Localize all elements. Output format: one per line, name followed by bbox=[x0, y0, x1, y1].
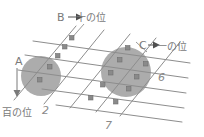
node bbox=[38, 78, 43, 83]
lines-steep bbox=[14, 26, 180, 116]
label-group-c: C bbox=[139, 40, 147, 51]
label-place-tens: 十の位 bbox=[76, 13, 106, 23]
node bbox=[114, 100, 119, 105]
node bbox=[127, 87, 132, 92]
node bbox=[135, 75, 140, 80]
label-group-b: B bbox=[57, 12, 65, 23]
digit-ones: 6 bbox=[158, 72, 165, 83]
node bbox=[118, 58, 123, 63]
node bbox=[126, 46, 131, 51]
node bbox=[56, 54, 61, 59]
node bbox=[101, 83, 106, 88]
label-group-a: A bbox=[15, 56, 23, 67]
arrow-a bbox=[14, 68, 21, 97]
node bbox=[109, 71, 114, 76]
label-place-hundreds: 百の位 bbox=[2, 108, 32, 118]
shallow-line-5 bbox=[56, 105, 182, 122]
diagram-canvas: B 十の位 C 一の位 A 百の位 2 7 6 bbox=[0, 0, 204, 137]
node bbox=[89, 96, 94, 101]
digit-hundreds: 2 bbox=[42, 105, 49, 116]
node bbox=[48, 65, 53, 70]
node bbox=[70, 36, 75, 41]
node bbox=[144, 62, 149, 67]
node bbox=[63, 45, 68, 50]
digit-tens: 7 bbox=[105, 120, 112, 131]
label-place-ones: 一の位 bbox=[157, 42, 187, 52]
